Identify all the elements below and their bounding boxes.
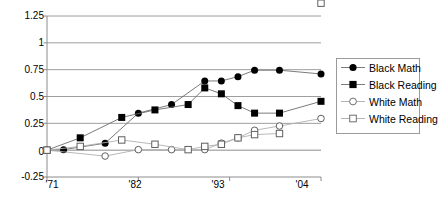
legend-label: Black Math <box>366 62 421 74</box>
axis-lines <box>44 16 322 181</box>
legend: Black Math Black Reading White Math Whit… <box>336 58 420 134</box>
legend-item-white-math[interactable]: White Math <box>337 93 419 110</box>
series-layer <box>44 0 325 159</box>
legend-item-white-reading[interactable]: White Reading <box>337 110 419 127</box>
filled-circle-icon <box>340 59 366 76</box>
x-tick-label: '04 <box>287 180 317 190</box>
legend-item-black-reading[interactable]: Black Reading <box>337 76 419 93</box>
legend-label: White Math <box>366 96 422 108</box>
open-circle-icon <box>340 93 366 110</box>
filled-square-icon <box>340 76 366 93</box>
open-square-icon <box>340 110 366 127</box>
legend-label: Black Reading <box>366 79 437 91</box>
x-tick-label: '82 <box>120 180 150 190</box>
x-tick-label: '93 <box>203 180 233 190</box>
legend-item-black-math[interactable]: Black Math <box>337 59 419 76</box>
legend-label: White Reading <box>366 113 438 125</box>
x-tick-label: '71 <box>37 180 67 190</box>
